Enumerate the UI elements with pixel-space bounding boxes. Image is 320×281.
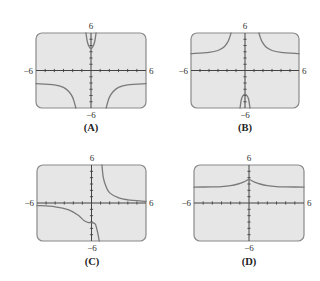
y-max-label-c: 6	[90, 153, 95, 163]
x-max-label-c: 6	[149, 198, 154, 208]
graphs-figure: 6 −6 −6 6 (A) 6 −6 −6 6 (B) 6 −6 −6 6 (C…	[0, 0, 320, 281]
panel-c: 6 −6 −6 6 (C)	[24, 153, 154, 268]
caption-c: (C)	[85, 256, 100, 268]
y-max-label-b: 6	[243, 21, 248, 31]
x-min-label-a: −6	[23, 66, 33, 76]
y-min-label-c: −6	[87, 243, 97, 253]
x-max-label-a: 6	[149, 66, 154, 76]
y-max-label-a: 6	[89, 21, 94, 31]
x-min-label-b: −6	[178, 66, 188, 76]
panel-a: 6 −6 −6 6 (A)	[23, 21, 154, 134]
caption-b: (B)	[238, 122, 253, 134]
y-max-label-d: 6	[247, 153, 252, 163]
panel-b: 6 −6 −6 6 (B)	[178, 21, 307, 134]
x-min-label-c: −6	[24, 198, 34, 208]
caption-a: (A)	[84, 122, 99, 134]
y-min-label-a: −6	[86, 110, 96, 120]
y-min-label-b: −6	[240, 110, 250, 120]
caption-d: (D)	[242, 256, 257, 268]
x-max-label-d: 6	[307, 198, 312, 208]
y-min-label-d: −6	[244, 243, 254, 253]
panel-d: 6 −6 −6 6 (D)	[181, 153, 312, 268]
x-min-label-d: −6	[181, 198, 191, 208]
x-max-label-b: 6	[302, 66, 307, 76]
